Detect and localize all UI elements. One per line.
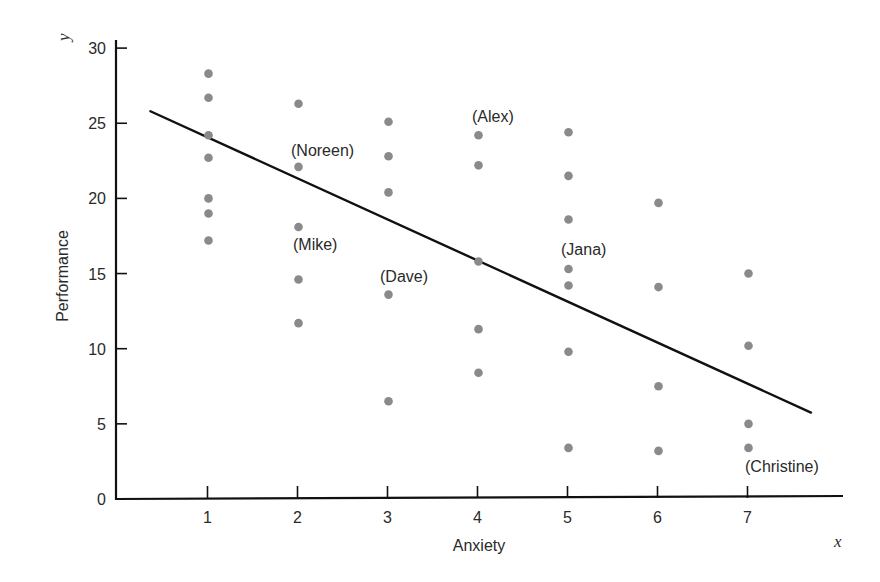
label-mike: (Mike) — [293, 236, 337, 253]
data-point — [654, 283, 663, 292]
data-point — [654, 199, 663, 208]
data-point — [564, 265, 573, 274]
y-tick-label: 30 — [88, 40, 106, 57]
data-point — [294, 99, 303, 108]
y-tick-label: 5 — [97, 416, 106, 433]
x-ticks: 1234567 — [203, 486, 752, 526]
y-tick-label: 15 — [88, 266, 106, 283]
x-tick-label: 1 — [203, 509, 212, 526]
y-ticks: 051015202530 — [88, 40, 127, 508]
data-point — [204, 209, 213, 218]
data-point — [294, 223, 303, 232]
y-axis-title: Performance — [54, 230, 71, 322]
x-tick-label: 2 — [293, 509, 302, 526]
data-point — [384, 152, 393, 161]
data-point — [294, 163, 303, 172]
data-point — [474, 161, 483, 170]
x-tick-label: 3 — [383, 509, 392, 526]
data-point — [474, 131, 483, 140]
data-point — [204, 154, 213, 163]
x-tick-label: 5 — [563, 509, 572, 526]
y-tick-label: 0 — [97, 491, 106, 508]
data-point — [564, 172, 573, 181]
data-point — [204, 131, 213, 140]
x-axis-title: Anxiety — [453, 537, 505, 554]
data-point — [204, 69, 213, 78]
data-point — [744, 341, 753, 350]
data-point — [204, 93, 213, 102]
data-point — [564, 281, 573, 290]
data-point — [384, 290, 393, 299]
data-point — [564, 128, 573, 137]
data-point — [744, 420, 753, 429]
label-dave: (Dave) — [380, 268, 428, 285]
y-tick-label: 10 — [88, 341, 106, 358]
data-point — [384, 397, 393, 406]
y-tick-label: 20 — [88, 190, 106, 207]
label-christine: (Christine) — [745, 458, 819, 475]
data-point — [744, 269, 753, 278]
data-point — [204, 236, 213, 245]
data-point — [564, 215, 573, 224]
label-alex: (Alex) — [472, 108, 514, 125]
data-point — [294, 319, 303, 328]
y-axis-variable: y — [54, 33, 73, 43]
data-point — [294, 275, 303, 284]
x-tick-label: 7 — [743, 509, 752, 526]
data-point — [474, 325, 483, 334]
data-point — [654, 447, 663, 456]
x-tick-label: 4 — [473, 509, 482, 526]
data-point — [564, 444, 573, 453]
data-point — [654, 382, 663, 391]
data-point — [204, 194, 213, 203]
label-jana: (Jana) — [561, 241, 606, 258]
y-tick-label: 25 — [88, 115, 106, 132]
data-point — [474, 368, 483, 377]
label-noreen: (Noreen) — [291, 142, 354, 159]
point-labels: (Noreen) (Mike) (Dave) (Alex) (Jana) (Ch… — [291, 108, 819, 475]
data-points — [204, 69, 753, 455]
data-point — [564, 347, 573, 356]
data-point — [384, 117, 393, 126]
x-axis-line — [115, 496, 843, 499]
data-point — [384, 188, 393, 197]
x-tick-label: 6 — [653, 509, 662, 526]
data-point — [744, 444, 753, 453]
scatter-chart: 051015202530 1234567 y Performance Anxie… — [0, 0, 880, 582]
data-point — [474, 257, 483, 266]
x-axis-variable: x — [833, 532, 842, 551]
